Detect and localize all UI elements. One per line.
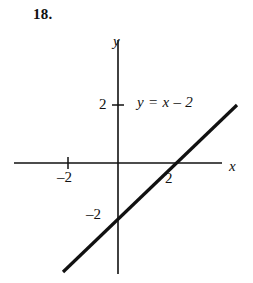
y-axis-label: y — [113, 34, 120, 49]
equation-label: y = x – 2 — [137, 95, 193, 110]
coordinate-plane-figure — [0, 0, 253, 283]
y-tick-label-negative-two: –2 — [86, 207, 101, 222]
x-axis-label: x — [229, 159, 236, 174]
x-tick-label-negative-two: –2 — [57, 170, 72, 185]
figure-page: 18. y x y = x – 2 2 –2 –2 2 — [0, 0, 253, 283]
y-tick-label-two: 2 — [99, 97, 107, 112]
x-tick-label-two: 2 — [165, 171, 173, 186]
line-graph-y-equals-x-minus-2 — [63, 105, 237, 272]
